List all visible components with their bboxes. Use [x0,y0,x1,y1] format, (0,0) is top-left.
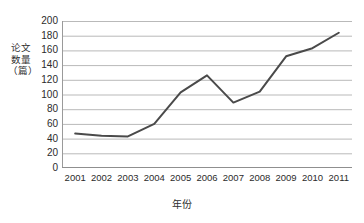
x-axis-tick-label: 2008 [247,172,273,184]
y-axis-tick-label: 20 [32,148,58,158]
x-axis-tick-label: 2009 [273,172,299,184]
plot-area [62,21,352,168]
plot-svg [62,21,352,168]
x-axis-tick-label: 2010 [299,172,325,184]
x-axis-tick-label: 2011 [326,172,352,184]
y-axis-tick-label: 160 [32,45,58,55]
y-axis-tick-label: 0 [32,163,58,173]
y-axis-tick-label: 200 [32,16,58,26]
data-series-line [75,33,339,137]
x-axis-title: 年份 [0,196,364,211]
x-axis-tick-label: 2002 [88,172,114,184]
y-axis-tick-labels: 020406080100120140160180200 [30,0,58,223]
gridlines [62,22,352,169]
x-axis-tick-label: 2001 [62,172,88,184]
y-axis-tick-label: 60 [32,119,58,129]
y-axis-tick-label: 120 [32,75,58,85]
y-axis-tick-label: 100 [32,90,58,100]
x-axis-tick-label: 2003 [115,172,141,184]
y-axis-tick-label: 180 [32,31,58,41]
line-chart: 论文数量 （篇） 020406080100120140160180200 200… [0,0,364,223]
y-axis-tick-label: 40 [32,134,58,144]
x-axis-tick-label: 2004 [141,172,167,184]
y-axis-tick-label: 140 [32,60,58,70]
x-axis-tick-labels: 2001200220032004200520062007200820092010… [62,172,352,186]
y-axis-tick-label: 80 [32,104,58,114]
x-axis-tick-label: 2007 [220,172,246,184]
x-axis-tick-label: 2006 [194,172,220,184]
x-axis-tick-label: 2005 [167,172,193,184]
